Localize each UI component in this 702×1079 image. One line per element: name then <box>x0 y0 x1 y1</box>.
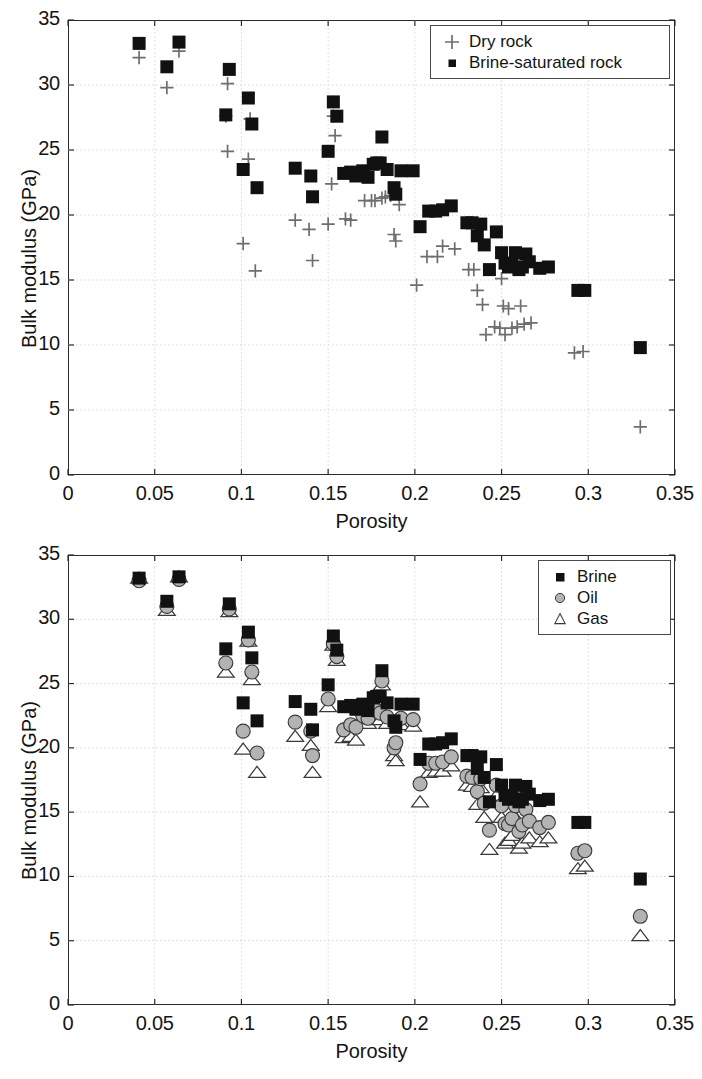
x-tick-label: 0.1 <box>206 1012 276 1035</box>
x-tick-label: 0.05 <box>120 482 190 505</box>
y-tick-label: 5 <box>10 397 60 420</box>
y-tick-label: 5 <box>10 928 60 951</box>
x-axis-title-bottom: Porosity <box>68 1040 675 1063</box>
plus-marker-icon <box>439 33 465 51</box>
x-tick-label: 0.05 <box>120 1012 190 1035</box>
circle-marker-icon <box>547 589 573 607</box>
square-marker-icon <box>547 568 573 586</box>
y-tick-label: 35 <box>10 542 60 565</box>
x-tick-label: 0.2 <box>380 1012 450 1035</box>
y-tick-label: 25 <box>10 671 60 694</box>
figure-root: 05101520253035 00.050.10.150.20.250.30.3… <box>0 0 702 1079</box>
x-tick-label: 0.35 <box>640 1012 702 1035</box>
legend-label-brine-saturated-rock: Brine-saturated rock <box>465 53 622 73</box>
legend-top[interactable]: Dry rock Brine-saturated rock <box>430 25 670 79</box>
x-tick-label: 0.15 <box>293 1012 363 1035</box>
x-tick-label: 0.3 <box>553 482 623 505</box>
x-tick-label: 0.25 <box>467 482 537 505</box>
chart-panel-bottom: 05101520253035 00.050.10.150.20.250.30.3… <box>0 535 702 1079</box>
x-tick-label: 0.35 <box>640 482 702 505</box>
legend-label-gas: Gas <box>573 609 608 629</box>
x-tick-label: 0.25 <box>467 1012 537 1035</box>
y-tick-label: 30 <box>10 606 60 629</box>
y-axis-title-top: Bulk modulus (GPa) <box>18 169 41 348</box>
y-tick-label: 30 <box>10 72 60 95</box>
scatter-canvas-top <box>0 0 702 540</box>
square-marker-icon <box>439 54 465 72</box>
legend-item-brine-saturated-rock[interactable]: Brine-saturated rock <box>439 52 659 73</box>
legend-item-gas[interactable]: Gas <box>547 608 660 629</box>
legend-item-brine[interactable]: Brine <box>547 566 660 587</box>
legend-bottom[interactable]: Brine Oil Gas <box>538 560 671 635</box>
legend-item-oil[interactable]: Oil <box>547 587 660 608</box>
legend-label-brine: Brine <box>573 567 617 587</box>
legend-label-oil: Oil <box>573 588 598 608</box>
x-tick-label: 0.3 <box>553 1012 623 1035</box>
x-tick-label: 0 <box>33 482 103 505</box>
legend-item-dry-rock[interactable]: Dry rock <box>439 31 659 52</box>
triangle-marker-icon <box>547 610 573 628</box>
x-tick-label: 0 <box>33 1012 103 1035</box>
legend-label-dry-rock: Dry rock <box>465 32 532 52</box>
y-tick-label: 25 <box>10 137 60 160</box>
y-axis-title-bottom: Bulk modulus (GPa) <box>18 701 41 880</box>
y-tick-label: 35 <box>10 7 60 30</box>
x-tick-label: 0.2 <box>380 482 450 505</box>
x-axis-title-top: Porosity <box>68 510 675 533</box>
x-tick-label: 0.1 <box>206 482 276 505</box>
chart-panel-top: 05101520253035 00.050.10.150.20.250.30.3… <box>0 0 702 540</box>
x-tick-label: 0.15 <box>293 482 363 505</box>
